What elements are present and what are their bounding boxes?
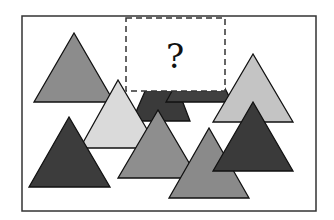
question-mark: ? <box>166 36 184 76</box>
triangle-puzzle-figure: ? <box>0 0 334 220</box>
